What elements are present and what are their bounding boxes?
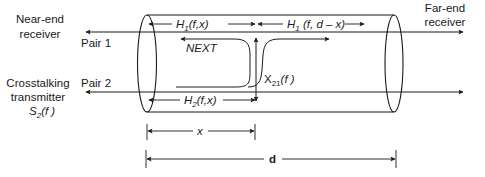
crosstalking-transmitter-label-1: Crosstalking	[6, 77, 69, 89]
h1-far-label: H1 (f, d – x)	[287, 18, 345, 33]
pair1-label: Pair 1	[81, 37, 111, 49]
dimension-d: d	[146, 150, 396, 168]
crosstalk-diagram: H1(f,x) H1 (f, d – x) H2(f,x) NEXT X21(f…	[0, 0, 485, 177]
far-end-receiver-label-2: receiver	[425, 16, 466, 28]
near-end-receiver-label-2: receiver	[20, 28, 61, 40]
h2-dimension: H2(f,x)	[149, 94, 255, 109]
crosstalking-transmitter-label-2: transmitter	[11, 91, 65, 103]
h1-near-label: H1(f,x)	[176, 18, 209, 33]
dim-x-label: x	[196, 125, 204, 137]
next-label: NEXT	[186, 42, 218, 54]
cable-far-end-ellipse	[385, 15, 403, 112]
near-end-receiver-label-1: Near-end	[16, 13, 64, 25]
h1-near-dimension: H1(f,x)	[149, 18, 255, 33]
x21-label: X21(f )	[264, 73, 295, 88]
source-signal-label: S2(f )	[29, 105, 55, 120]
h1-far-dimension: H1 (f, d – x)	[258, 18, 364, 33]
dimension-x: x	[147, 124, 255, 140]
far-end-receiver-label-1: Far-end	[425, 2, 465, 14]
h2-label: H2(f,x)	[184, 94, 217, 109]
cable-near-end-ellipse	[138, 15, 157, 112]
pair2-label: Pair 2	[81, 77, 111, 89]
dim-d-label: d	[269, 153, 276, 165]
